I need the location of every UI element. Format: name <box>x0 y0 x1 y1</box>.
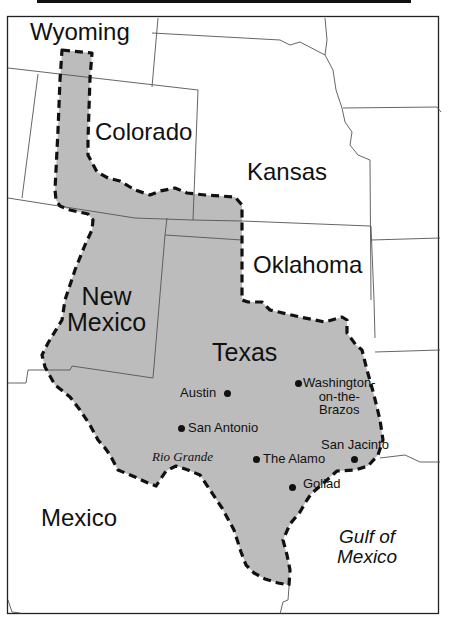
city-label-san-jacinto: San Jacinto <box>321 438 389 451</box>
city-dot-san-antonio <box>178 425 185 432</box>
city-label-goliad: Goliad <box>303 477 341 490</box>
city-label-san-antonio: San Antonio <box>188 421 258 434</box>
city-dot-san-jacinto <box>351 456 358 463</box>
label-rio-grande: Rio Grande <box>152 450 213 463</box>
label-new-mexico: New Mexico <box>67 283 146 336</box>
label-oklahoma: Oklahoma <box>253 253 362 277</box>
label-texas: Texas <box>212 340 277 365</box>
city-dot-austin <box>224 390 231 397</box>
label-colorado: Colorado <box>95 120 192 144</box>
city-label-washington-on-the-brazos: Washington- on-the- Brazos <box>303 376 376 417</box>
city-label-the-alamo: The Alamo <box>263 452 325 465</box>
city-dot-the-alamo <box>253 456 260 463</box>
city-dot-washington-on-the-brazos <box>295 380 302 387</box>
label-wyoming: Wyoming <box>30 20 130 44</box>
label-gulf-of-mexico: Gulf of Mexico <box>337 527 397 567</box>
city-label-austin: Austin <box>180 386 216 399</box>
label-mexico: Mexico <box>41 506 117 530</box>
city-dot-goliad <box>289 484 296 491</box>
label-kansas: Kansas <box>247 160 327 184</box>
